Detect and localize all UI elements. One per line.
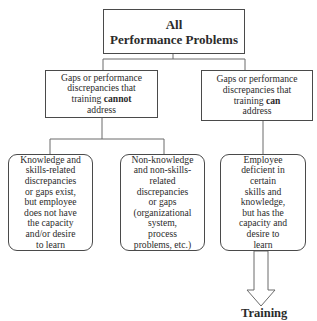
leaf-knowledge-skills-no-capacity: Knowledge and skills-related discrepanci… (8, 154, 93, 251)
training-outcome-label: Training (241, 306, 287, 321)
arrow-down-icon (247, 251, 275, 306)
leaf-label: Knowledge and skills-related discrepanci… (20, 155, 80, 250)
leaf-label: Employee deficient in certain skills and… (239, 155, 287, 250)
branch-can-node: Gaps or performance discrepancies that t… (201, 70, 313, 121)
branch-cannot-node: Gaps or performance discrepancies that t… (45, 70, 158, 118)
leaf-label: Non-knowledge and non-skills- related di… (132, 155, 194, 250)
root-node: All Performance Problems (103, 9, 245, 54)
leaf-employee-deficient: Employee deficient in certain skills and… (220, 154, 306, 251)
root-label: All Performance Problems (110, 17, 238, 47)
branch-can-label: Gaps or performance discrepancies that t… (217, 74, 298, 116)
branch-cannot-label: Gaps or performance discrepancies that t… (61, 73, 142, 115)
leaf-non-knowledge-skills: Non-knowledge and non-skills- related di… (120, 154, 205, 251)
